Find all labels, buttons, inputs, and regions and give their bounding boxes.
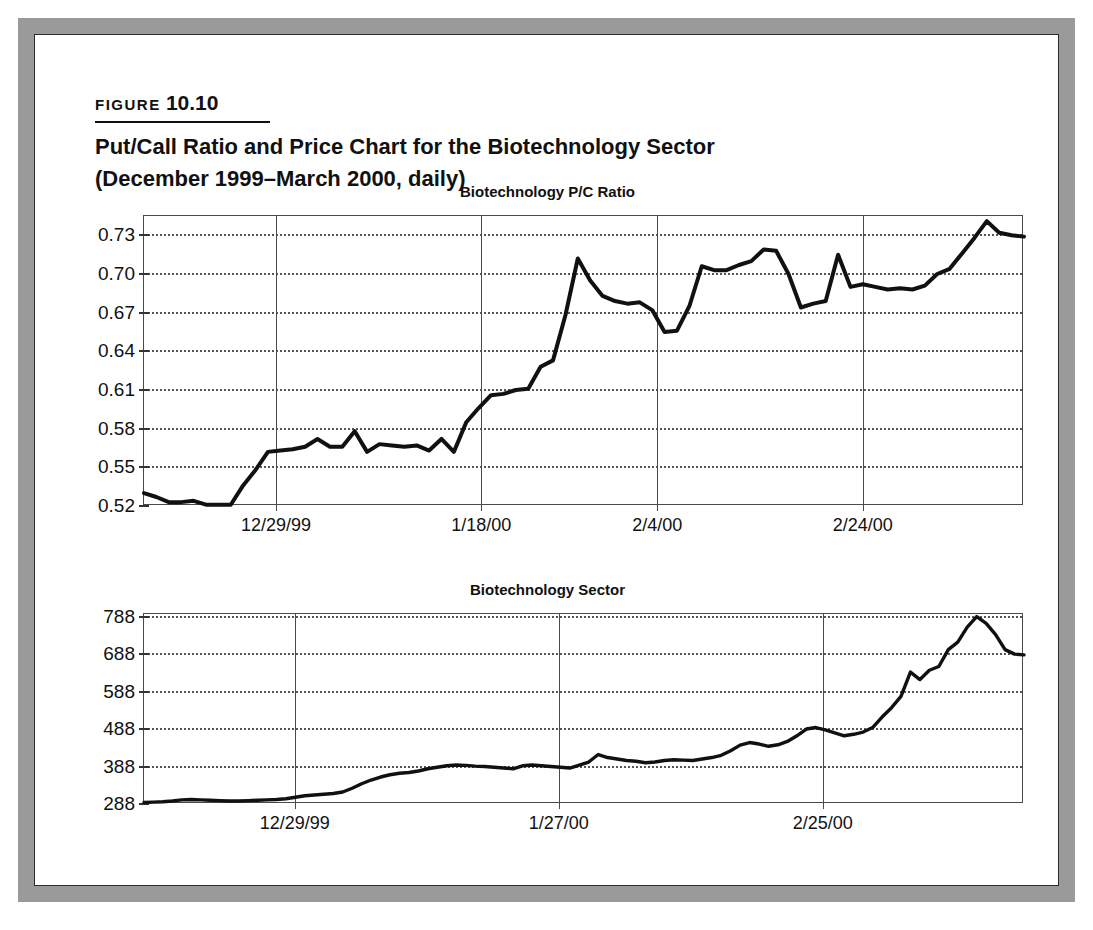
figure-label-number: 10.10 [166,91,219,114]
y-axis-label: 488 [103,718,135,740]
y-axis-label: 588 [103,681,135,703]
y-axis-label: 0.55 [98,456,135,478]
y-axis-label: 0.70 [98,263,135,285]
figure-frame: FIGURE 10.10 Put/Call Ratio and Price Ch… [18,18,1075,902]
y-axis-label: 0.67 [98,302,135,324]
chart-pc-ratio: Biotechnology P/C Ratio 0.730.700.670.64… [35,183,1060,563]
plot-area-biotech-sector: 78868858848838828812/29/991/27/002/25/00 [143,613,1023,803]
y-axis-label: 388 [103,756,135,778]
x-axis-label: 12/29/99 [241,515,311,536]
y-axis-label: 0.73 [98,224,135,246]
y-axis-label: 0.52 [98,495,135,517]
x-axis-label: 2/4/00 [632,515,682,536]
figure-title-line-1: Put/Call Ratio and Price Chart for the B… [95,131,995,163]
y-axis-label: 0.61 [98,379,135,401]
figure-label-underline [95,121,270,123]
plot-area-pc-ratio: 0.730.700.670.640.610.580.550.5212/29/99… [143,215,1023,505]
y-axis-label: 0.64 [98,340,135,362]
data-series-line [144,216,1024,506]
y-axis-label: 688 [103,643,135,665]
data-series-line [144,614,1024,804]
x-axis-label: 1/27/00 [529,813,589,834]
y-axis-label: 288 [103,793,135,815]
y-axis-label: 0.58 [98,418,135,440]
chart-title-biotech-sector: Biotechnology Sector [35,581,1060,598]
chart-biotech-sector: Biotechnology Sector 7886885884883882881… [35,581,1060,871]
x-axis-label: 12/29/99 [260,813,330,834]
figure-label-word: FIGURE [95,96,161,113]
x-axis-label: 1/18/00 [451,515,511,536]
x-axis-label: 2/25/00 [793,813,853,834]
figure-inner-panel: FIGURE 10.10 Put/Call Ratio and Price Ch… [34,34,1059,886]
chart-title-pc-ratio: Biotechnology P/C Ratio [35,183,1060,200]
y-axis-label: 788 [103,606,135,628]
figure-page: FIGURE 10.10 Put/Call Ratio and Price Ch… [0,0,1093,930]
x-axis-label: 2/24/00 [833,515,893,536]
figure-label: FIGURE 10.10 [95,91,218,115]
